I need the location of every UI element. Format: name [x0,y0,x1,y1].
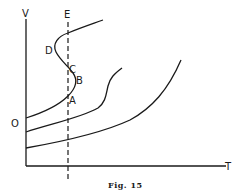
x-axis-label: T [224,161,232,172]
figure-caption: Fig. 15 [108,180,143,190]
point-c-label: C [69,64,76,75]
line-e-label: E [64,9,70,20]
curve-upper [26,20,103,118]
point-d-label: D [45,45,53,56]
y-axis-label: V [22,8,29,19]
diagram-canvas: V T O E A B C D Fig. 15 [0,0,244,194]
point-a-label: A [69,95,76,106]
origin-label: O [11,118,19,129]
curve-lower [26,60,181,148]
point-b-label: B [76,75,83,86]
